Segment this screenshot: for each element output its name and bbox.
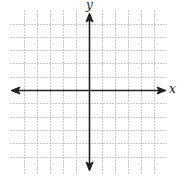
grid-lines <box>10 10 167 175</box>
x-axis-label: x <box>169 83 176 95</box>
coordinate-plane <box>0 0 182 179</box>
y-axis-label: y <box>86 0 93 11</box>
y-axis <box>86 13 93 171</box>
x-axis <box>11 87 166 94</box>
